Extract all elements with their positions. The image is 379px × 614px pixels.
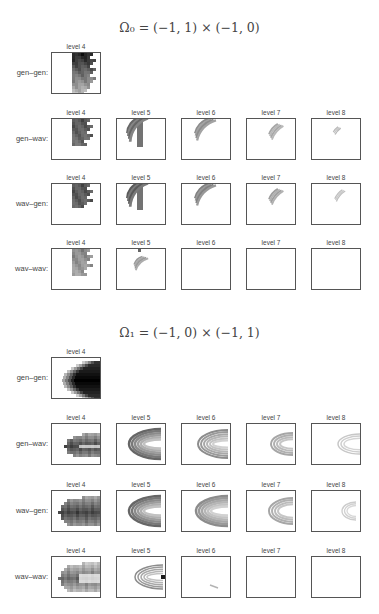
heatmap-box bbox=[116, 490, 166, 532]
panel-level-title: level 7 bbox=[246, 481, 296, 488]
heatmap-image bbox=[117, 119, 165, 159]
row-label: wav–gen: bbox=[0, 199, 48, 208]
section-title: Ω₀ = (−1, 1) × (−1, 0) bbox=[0, 20, 379, 35]
panel-level-title: level 8 bbox=[311, 239, 361, 246]
heatmap-box bbox=[246, 490, 296, 532]
row-label: gen–wav: bbox=[0, 439, 48, 448]
heatmap-box bbox=[246, 248, 296, 290]
heatmap-image bbox=[247, 249, 295, 289]
heatmap-box bbox=[51, 52, 101, 94]
panel-level-title: level 4 bbox=[51, 547, 101, 554]
heatmap-box bbox=[246, 183, 296, 225]
heatmap-image bbox=[117, 424, 165, 464]
panel-level-title: level 5 bbox=[116, 414, 166, 421]
heatmap-image bbox=[52, 557, 100, 597]
heatmap-panel: level 7 bbox=[246, 183, 296, 225]
heatmap-box bbox=[181, 556, 231, 598]
heatmap-image bbox=[182, 424, 230, 464]
heatmap-image bbox=[117, 491, 165, 531]
heatmap-box bbox=[51, 357, 101, 399]
heatmap-panel: level 8 bbox=[311, 490, 361, 532]
heatmap-image bbox=[247, 184, 295, 224]
heatmap-box bbox=[311, 183, 361, 225]
heatmap-box bbox=[116, 248, 166, 290]
heatmap-image bbox=[312, 119, 360, 159]
heatmap-panel: level 4 bbox=[51, 490, 101, 532]
heatmap-box bbox=[51, 248, 101, 290]
row-label: wav–wav: bbox=[0, 264, 48, 273]
panel-level-title: level 5 bbox=[116, 109, 166, 116]
panel-level-title: level 6 bbox=[181, 239, 231, 246]
heatmap-panel: level 8 bbox=[311, 118, 361, 160]
panel-level-title: level 4 bbox=[51, 481, 101, 488]
panel-level-title: level 8 bbox=[311, 109, 361, 116]
heatmap-panel: level 7 bbox=[246, 490, 296, 532]
heatmap-box bbox=[116, 556, 166, 598]
heatmap-image bbox=[52, 184, 100, 224]
heatmap-box bbox=[246, 556, 296, 598]
heatmap-box bbox=[116, 423, 166, 465]
section-title: Ω₁ = (−1, 0) × (−1, 1) bbox=[0, 325, 379, 340]
heatmap-box bbox=[311, 118, 361, 160]
heatmap-image bbox=[52, 491, 100, 531]
heatmap-image bbox=[117, 184, 165, 224]
heatmap-box bbox=[246, 118, 296, 160]
heatmap-box bbox=[181, 118, 231, 160]
heatmap-panel: level 4 bbox=[51, 183, 101, 225]
panel-level-title: level 6 bbox=[181, 109, 231, 116]
panel-level-title: level 7 bbox=[246, 547, 296, 554]
heatmap-box bbox=[116, 118, 166, 160]
row-label: gen–gen: bbox=[0, 68, 48, 77]
heatmap-image bbox=[52, 424, 100, 464]
heatmap-panel: level 6 bbox=[181, 118, 231, 160]
heatmap-image bbox=[182, 557, 230, 597]
heatmap-box bbox=[246, 423, 296, 465]
panel-level-title: level 6 bbox=[181, 481, 231, 488]
heatmap-panel: level 7 bbox=[246, 118, 296, 160]
heatmap-box bbox=[51, 118, 101, 160]
heatmap-box bbox=[116, 183, 166, 225]
heatmap-box bbox=[311, 423, 361, 465]
heatmap-image bbox=[247, 424, 295, 464]
panel-level-title: level 6 bbox=[181, 174, 231, 181]
panel-level-title: level 5 bbox=[116, 239, 166, 246]
panel-level-title: level 7 bbox=[246, 239, 296, 246]
heatmap-image bbox=[117, 249, 165, 289]
heatmap-image bbox=[52, 358, 100, 398]
heatmap-box bbox=[311, 248, 361, 290]
panel-level-title: level 5 bbox=[116, 481, 166, 488]
heatmap-panel: level 4 bbox=[51, 248, 101, 290]
heatmap-panel: level 6 bbox=[181, 423, 231, 465]
heatmap-panel: level 5 bbox=[116, 423, 166, 465]
heatmap-image bbox=[182, 249, 230, 289]
panel-level-title: level 6 bbox=[181, 547, 231, 554]
panel-level-title: level 5 bbox=[116, 547, 166, 554]
heatmap-image bbox=[312, 184, 360, 224]
heatmap-image bbox=[312, 249, 360, 289]
heatmap-panel: level 5 bbox=[116, 183, 166, 225]
heatmap-panel: level 6 bbox=[181, 490, 231, 532]
heatmap-panel: level 6 bbox=[181, 248, 231, 290]
heatmap-image bbox=[52, 53, 100, 93]
heatmap-box bbox=[51, 556, 101, 598]
heatmap-image bbox=[312, 491, 360, 531]
heatmap-image bbox=[117, 557, 165, 597]
heatmap-box bbox=[181, 248, 231, 290]
heatmap-box bbox=[311, 490, 361, 532]
heatmap-panel: level 5 bbox=[116, 118, 166, 160]
panel-level-title: level 7 bbox=[246, 109, 296, 116]
row-label: gen–wav: bbox=[0, 134, 48, 143]
heatmap-box bbox=[181, 490, 231, 532]
panel-level-title: level 4 bbox=[51, 414, 101, 421]
heatmap-panel: level 8 bbox=[311, 556, 361, 598]
row-label: wav–gen: bbox=[0, 506, 48, 515]
heatmap-box bbox=[311, 556, 361, 598]
heatmap-panel: level 6 bbox=[181, 556, 231, 598]
heatmap-image bbox=[312, 557, 360, 597]
panel-level-title: level 8 bbox=[311, 547, 361, 554]
panel-level-title: level 8 bbox=[311, 481, 361, 488]
panel-level-title: level 7 bbox=[246, 174, 296, 181]
heatmap-image bbox=[247, 557, 295, 597]
heatmap-image bbox=[247, 491, 295, 531]
heatmap-panel: level 8 bbox=[311, 423, 361, 465]
